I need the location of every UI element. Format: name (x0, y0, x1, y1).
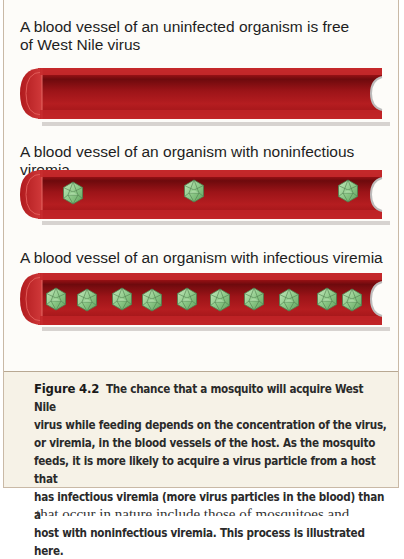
figure-frame: A blood vessel of an uninfected organism… (3, 0, 399, 488)
figure-illustration: A blood vessel of an uninfected organism… (4, 0, 398, 371)
caption-line: feeds, it is more likely to acquire a vi… (34, 454, 376, 486)
panel-label-infectious: A blood vessel of an organism with infec… (20, 249, 383, 267)
panel-label-line: A blood vessel of an organism with infec… (20, 249, 383, 266)
blood-vessel-infectious (20, 271, 386, 333)
panel-label-line: of West Nile virus (20, 36, 140, 53)
blood-vessel-noninfectious (20, 168, 386, 226)
panel-label-line: A blood vessel of an uninfected organism… (20, 18, 349, 35)
body-text-cutoff: that occur in nature include those of mo… (36, 506, 376, 516)
panel-label-uninfected: A blood vessel of an uninfected organism… (20, 18, 349, 54)
caption-line: or viremia, in the blood vessels of the … (34, 436, 375, 450)
figure-number: Figure 4.2 (34, 381, 99, 396)
caption-line: host with noninfectious viremia. This pr… (34, 526, 365, 558)
caption-line: virus while feeding depends on the conce… (34, 418, 387, 432)
figure-caption: Figure 4.2 The chance that a mosquito wi… (4, 371, 398, 487)
blood-vessel-uninfected (20, 66, 386, 126)
caption-text: Figure 4.2 The chance that a mosquito wi… (34, 380, 388, 559)
